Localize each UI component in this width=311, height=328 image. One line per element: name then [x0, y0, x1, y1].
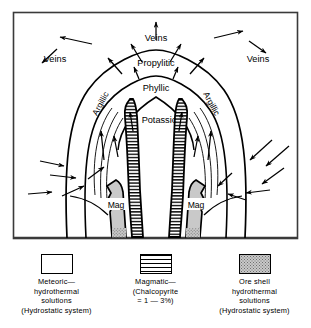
legend-line: solutions: [219, 296, 289, 306]
legend-caption-ore-shell: Ore shell hydrothermal solutions (Hydros…: [219, 277, 289, 315]
legend-item-magmatic: Magmatic— (Chalcopyrite = 1 — 3%): [107, 254, 204, 306]
mag-label-right-group: Mag: [185, 198, 207, 210]
label-propylitic: Propylitic: [137, 58, 175, 68]
legend-line: solutions: [21, 296, 91, 306]
label-veins-right: Veins: [247, 54, 270, 64]
legend-line: Ore shell: [219, 277, 289, 287]
legend-line: hydrothermal: [219, 287, 289, 297]
legend-caption-magmatic: Magmatic— (Chalcopyrite = 1 — 3%): [133, 277, 179, 306]
legend-item-ore-shell: Ore shell hydrothermal solutions (Hydros…: [206, 254, 303, 315]
legend-line: = 1 — 3%): [133, 296, 179, 306]
label-veins-left: Veins: [44, 54, 67, 64]
mag-label-left-group: Mag: [105, 198, 127, 210]
figure-root: Veins Veins Veins Propylitic Phyllic Pot…: [0, 0, 311, 328]
diagram-border: [14, 13, 298, 239]
legend-line: hydrothermal: [21, 287, 91, 297]
label-potassic: Potassic: [142, 115, 177, 125]
legend-caption-meteoric: Meteoric— hydrothermal solutions (Hydros…: [21, 277, 91, 315]
legend-line: (Hydrostatic system): [21, 306, 91, 316]
legend-swatch-magmatic: [140, 254, 172, 274]
legend-swatch-meteoric: [41, 254, 73, 274]
legend-line: (Hydrostatic system): [219, 306, 289, 316]
label-mag-left: Mag: [108, 200, 125, 210]
cross-section-diagram: Veins Veins Veins Propylitic Phyllic Pot…: [0, 0, 311, 250]
magma-foot-left: [112, 228, 126, 237]
legend: Meteoric— hydrothermal solutions (Hydros…: [0, 250, 311, 328]
legend-line: Magmatic—: [133, 277, 179, 287]
magma-foot-right: [186, 228, 200, 237]
legend-line: (Chalcopyrite: [133, 287, 179, 297]
legend-swatch-ore-shell: [239, 254, 271, 274]
label-phyllic: Phyllic: [143, 83, 170, 93]
label-mag-right: Mag: [188, 200, 205, 210]
label-veins-top: Veins: [145, 33, 168, 43]
legend-item-meteoric: Meteoric— hydrothermal solutions (Hydros…: [8, 254, 105, 315]
legend-line: Meteoric—: [21, 277, 91, 287]
